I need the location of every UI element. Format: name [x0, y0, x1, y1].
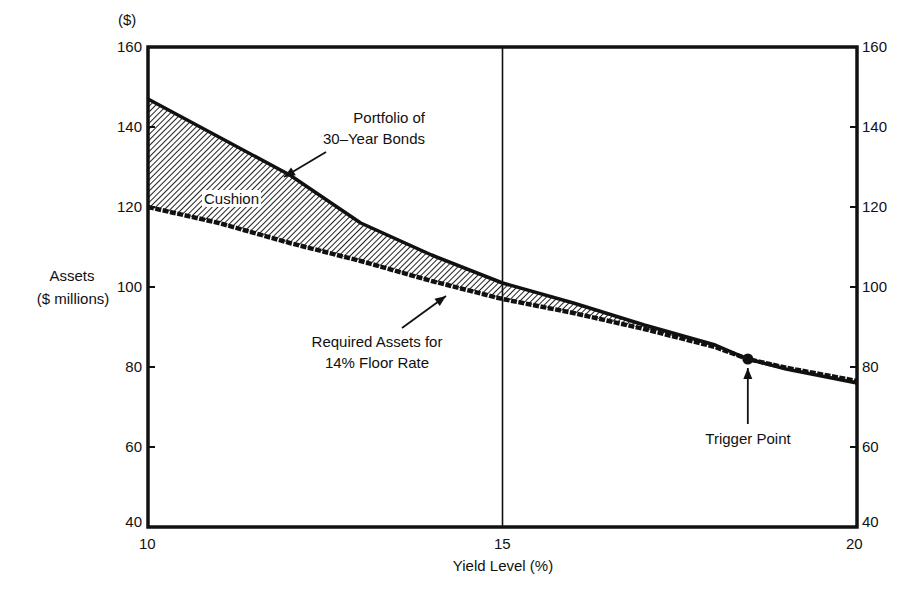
y-tick-label-right-120: 120	[862, 198, 887, 215]
trigger-arrow-head	[743, 368, 752, 379]
y-tick-label-right-140: 140	[862, 118, 887, 135]
y-tick-label-right-80: 80	[862, 358, 879, 375]
x-tick-label-15: 15	[494, 535, 511, 552]
y-tick-label-left-120: 120	[100, 198, 142, 215]
chart-canvas	[0, 0, 914, 597]
required-assets-label-line2: 14% Floor Rate	[282, 354, 472, 371]
cushion-label: Cushion	[202, 190, 261, 207]
portfolio-label-line2: 30–Year Bonds	[288, 130, 425, 147]
y-tick-label-right-40: 40	[862, 513, 879, 530]
portfolio-label-line1: Portfolio of	[325, 109, 425, 126]
y-tick-label-right-160: 160	[862, 38, 887, 55]
trigger-point-label: Trigger Point	[688, 430, 808, 447]
y-axis-title-line1: Assets	[22, 267, 122, 284]
y-unit-label: ($)	[118, 11, 136, 28]
trigger-point-dot	[742, 354, 753, 365]
y-tick-label-left-60: 60	[100, 438, 142, 455]
x-tick-label-20: 20	[846, 535, 863, 552]
x-axis-title: Yield Level (%)	[403, 557, 603, 574]
y-tick-label-left-160: 160	[100, 38, 142, 55]
y-tick-label-right-100: 100	[862, 278, 887, 295]
x-tick-label-10: 10	[139, 535, 156, 552]
y-tick-label-left-140: 140	[100, 118, 142, 135]
y-tick-label-left-80: 80	[100, 358, 142, 375]
required-assets-arrow-head	[434, 296, 446, 306]
y-axis-title-line2: ($ millions)	[18, 290, 128, 307]
required-assets-label-line1: Required Assets for	[282, 333, 472, 350]
trigger-point-marker	[742, 354, 753, 365]
y-tick-label-right-60: 60	[862, 438, 879, 455]
y-tick-label-left-40: 40	[100, 513, 142, 530]
